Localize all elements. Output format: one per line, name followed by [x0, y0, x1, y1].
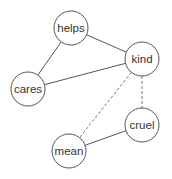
node-label: kind [131, 53, 152, 65]
node-mean: mean [52, 134, 86, 168]
word-graph: helpskindcarescruelmean [0, 0, 172, 179]
node-label: helps [57, 22, 85, 34]
node-label: mean [55, 145, 84, 157]
nodes: helpskindcarescruelmean [11, 11, 159, 168]
node-helps: helps [54, 11, 88, 45]
edge-kind-mean [80, 72, 132, 137]
node-cares: cares [11, 72, 45, 106]
node-label: cruel [130, 119, 155, 131]
node-cruel: cruel [125, 108, 159, 142]
edge-helps-kind [87, 35, 127, 52]
edge-mean-cruel [85, 131, 126, 146]
node-kind: kind [125, 42, 159, 76]
edge-cares-kind [44, 63, 125, 84]
node-label: cares [14, 83, 42, 95]
edge-helps-cares [38, 42, 61, 75]
